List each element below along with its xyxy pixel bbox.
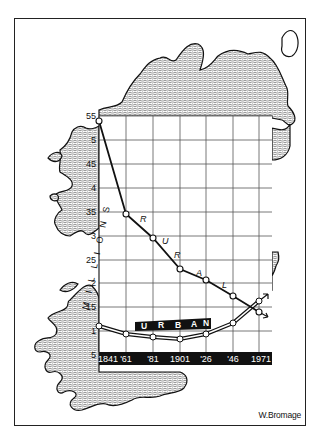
rural-label-letter: A [195, 268, 202, 278]
xtick-label: 1841 [98, 354, 118, 364]
rural-label-letter: L [222, 280, 227, 290]
xtick-label: 1901 [170, 354, 190, 364]
ytick-label: 4 [91, 183, 96, 193]
xtick-label: '61 [120, 354, 132, 364]
urban-label-letter: U [141, 321, 147, 331]
xtick-label: 1971 [251, 354, 271, 364]
ytick-label: 5 [91, 135, 96, 145]
chart-svg: 55 5 45 4 35 3 25 2 15 1 5 MILLIONS 1841… [0, 0, 323, 442]
ytick-label: 35 [86, 207, 96, 217]
urban-label-letter: R [158, 320, 164, 330]
xtick-label: '26 [200, 354, 212, 364]
artist-credit: W.Bromage [258, 410, 301, 420]
rural-label-letter: R [174, 250, 181, 260]
plot-area [99, 116, 272, 352]
ytick-label: 55 [86, 111, 96, 121]
xtick-label: '81 [147, 354, 159, 364]
ytick-label: 45 [86, 159, 96, 169]
figure: 55 5 45 4 35 3 25 2 15 1 5 MILLIONS 1841… [0, 0, 323, 442]
ytick-label: 5 [91, 350, 96, 360]
urban-label-letter: A [191, 319, 197, 329]
ytick-label: 1 [91, 326, 96, 336]
rural-label-letter: R [140, 214, 147, 224]
xtick-label: '46 [227, 354, 239, 364]
rural-label-letter: U [162, 236, 169, 246]
urban-label-letter: B [175, 320, 181, 330]
urban-label-letter: N [203, 318, 209, 328]
